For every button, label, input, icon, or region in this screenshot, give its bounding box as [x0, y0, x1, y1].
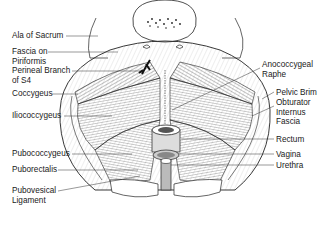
label-puborectalis: Puborectalis	[12, 165, 57, 175]
label-fascia-on-piriformis: Fascia on Piriformis	[12, 47, 48, 66]
label-pubococcygeus: Pubococcygeus	[12, 149, 70, 159]
rectum	[152, 125, 180, 152]
label-ala-of-sacrum: Ala of Sacrum	[12, 31, 63, 41]
label-perineal-branch-s4: Perineal Branch of S4	[12, 66, 70, 85]
urethra	[161, 159, 171, 191]
label-rectum: Rectum	[276, 135, 304, 145]
label-obturator-internus-fascia: Obturator Internus Fascia	[276, 98, 311, 127]
label-urethra: Urethra	[276, 161, 303, 171]
label-anococcygeal-raphe: Anococcygeal Raphe	[262, 60, 313, 79]
label-pubovesical-ligament: Pubovesical Ligament	[12, 186, 56, 205]
label-coccygeus: Coccygeus	[12, 89, 53, 99]
label-pelvic-brim: Pelvic Brim	[276, 88, 317, 98]
label-vagina: Vagina	[276, 150, 301, 160]
label-iliococcygeus: Iliococcygeus	[12, 111, 61, 121]
